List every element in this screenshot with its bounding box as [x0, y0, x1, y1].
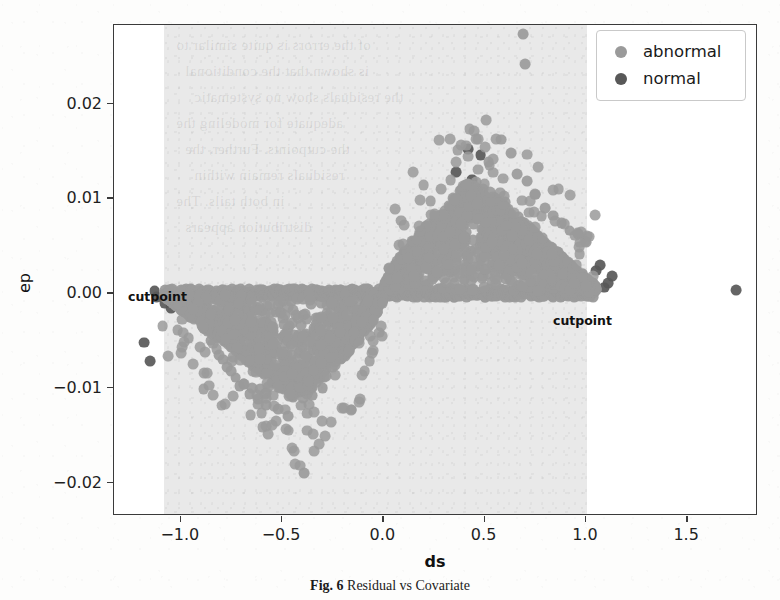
scatter-point	[520, 58, 531, 69]
scatter-point	[157, 321, 168, 332]
figure-caption: Fig. 6 Residual vs Covariate	[310, 578, 470, 594]
scatter-point	[316, 416, 327, 427]
scatter-point	[139, 337, 150, 348]
y-tick	[107, 482, 113, 483]
scatter-point	[524, 207, 535, 218]
y-axis-label: ep	[15, 273, 34, 293]
scatter-point	[730, 285, 741, 296]
scatter-point	[490, 134, 501, 145]
scatter-point	[251, 367, 262, 378]
scatter-point	[536, 210, 547, 221]
scatter-point	[467, 285, 478, 296]
scatter-point	[315, 339, 326, 350]
scatter-point	[487, 237, 498, 248]
scatter-point	[459, 233, 470, 244]
scatter-point	[466, 253, 477, 264]
x-tick-label: 0.5	[471, 525, 496, 544]
scatter-point	[595, 259, 606, 270]
scatter-point	[455, 284, 466, 295]
x-tick-label: 0.0	[370, 525, 395, 544]
scatter-point	[377, 298, 388, 309]
x-tick	[686, 516, 687, 522]
scatter-point	[368, 345, 379, 356]
scatter-point	[362, 295, 373, 306]
scatter-point	[267, 339, 278, 350]
scatter-point	[526, 267, 537, 278]
scatter-point	[339, 402, 350, 413]
scatter-point	[607, 271, 618, 282]
scatter-point	[521, 149, 532, 160]
figure-container: of the errors is quite similar tois show…	[0, 0, 780, 600]
scatter-point	[537, 233, 548, 244]
scatter-point	[368, 314, 379, 325]
scatter-point	[261, 421, 272, 432]
x-tick	[484, 516, 485, 522]
scatter-point	[490, 273, 501, 284]
scatter-point	[501, 220, 512, 231]
scatter-point	[246, 317, 257, 328]
scatter-point	[449, 194, 460, 205]
scatter-point	[455, 218, 466, 229]
scatter-point	[414, 220, 425, 231]
x-tick	[281, 516, 282, 522]
scatter-point	[396, 215, 407, 226]
scatter-point	[451, 157, 462, 168]
legend-marker-icon-normal	[615, 73, 627, 85]
scatter-point	[281, 424, 292, 435]
scatter-point	[216, 400, 227, 411]
scatter-point	[279, 319, 290, 330]
scatter-point	[538, 269, 549, 280]
scatter-point	[452, 145, 463, 156]
scatter-point	[197, 321, 208, 332]
scatter-point	[364, 331, 375, 342]
scatter-point	[415, 195, 426, 206]
scatter-point	[163, 350, 174, 361]
scatter-point	[512, 168, 523, 179]
scatter-point	[494, 260, 505, 271]
scatter-point	[574, 248, 585, 259]
legend-label-abnormal: abnormal	[643, 42, 721, 61]
scatter-point	[188, 304, 199, 315]
scatter-point	[402, 253, 413, 264]
y-tick-label: 0.00	[66, 283, 102, 302]
scatter-point	[246, 297, 257, 308]
scatter-point	[479, 178, 490, 189]
scatter-point	[461, 179, 472, 190]
scatter-point	[230, 315, 241, 326]
scatter-point	[330, 370, 341, 381]
scatter-point	[454, 268, 465, 279]
scatter-point	[529, 221, 540, 232]
scatter-point	[432, 267, 443, 278]
scatter-point	[390, 204, 401, 215]
scatter-point	[423, 252, 434, 263]
scatter-point	[202, 368, 213, 379]
scatter-point	[172, 325, 183, 336]
scatter-point	[354, 397, 365, 408]
scatter-point	[481, 114, 492, 125]
scatter-point	[344, 346, 355, 357]
scatter-point	[398, 239, 409, 250]
y-tick-label: −0.01	[53, 378, 102, 397]
x-tick	[585, 516, 586, 522]
scatter-point	[466, 265, 477, 276]
scatter-point	[265, 299, 276, 310]
scatter-point	[580, 281, 591, 292]
scatter-point	[479, 251, 490, 262]
cutpoint-annotation-left: cutpoint	[128, 289, 187, 304]
legend-marker-icon-abnormal	[615, 46, 627, 58]
scatter-point	[499, 250, 510, 261]
scatter-point	[517, 258, 528, 269]
scatter-point	[261, 378, 272, 389]
scatter-point	[195, 342, 206, 353]
scatter-point	[445, 133, 456, 144]
scatter-point	[507, 230, 518, 241]
scatter-point	[287, 340, 298, 351]
scatter-point	[506, 276, 517, 287]
scatter-point	[145, 356, 156, 367]
y-tick-label: 0.01	[66, 188, 102, 207]
scatter-point	[183, 333, 194, 344]
scatter-point	[506, 148, 517, 159]
scatter-point	[284, 389, 295, 400]
scatter-point	[302, 425, 313, 436]
scatter-point	[233, 298, 244, 309]
